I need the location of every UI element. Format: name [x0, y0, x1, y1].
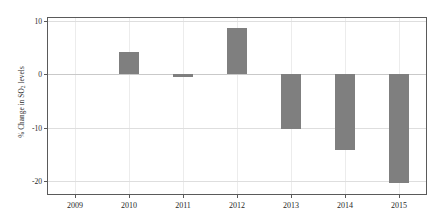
x-axis-tick [75, 194, 76, 198]
chart-figure: % Change in SO2 levels 100-10-2020092010… [0, 0, 438, 223]
bar-2013 [281, 74, 301, 129]
x-axis-tick-label: 2014 [337, 201, 353, 210]
bar-2012 [227, 28, 247, 74]
bar-2011 [173, 74, 193, 77]
x-axis-tick-label: 2010 [121, 201, 137, 210]
gridline-vertical [75, 18, 76, 194]
y-axis-tick [44, 128, 48, 129]
x-axis-tick-label: 2009 [67, 201, 83, 210]
gridline-horizontal [48, 128, 426, 129]
bar-2015 [389, 74, 409, 183]
gridline-vertical [129, 18, 130, 194]
gridline-horizontal [48, 181, 426, 182]
x-axis-tick [237, 194, 238, 198]
bar-2014 [335, 74, 355, 150]
gridline-vertical [183, 18, 184, 194]
y-axis-title: % Change in SO2 levels [18, 22, 26, 182]
bar-2010 [119, 52, 139, 74]
y-axis-tick-label: -20 [32, 176, 42, 185]
x-axis-tick-label: 2015 [391, 201, 407, 210]
y-axis-tick-label: 10 [34, 17, 42, 26]
x-axis-tick [183, 194, 184, 198]
plot-area: 100-10-202009201020112012201320142015 [47, 17, 427, 195]
x-axis-tick [399, 194, 400, 198]
x-axis-tick-label: 2012 [229, 201, 245, 210]
x-axis-tick-label: 2011 [175, 201, 191, 210]
x-axis-tick-label: 2013 [283, 201, 299, 210]
x-axis-tick [345, 194, 346, 198]
x-axis-tick [291, 194, 292, 198]
y-axis-tick-label: 0 [38, 70, 42, 79]
y-axis-tick [44, 74, 48, 75]
zero-line [48, 74, 426, 75]
y-axis-title-pre: % Change in SO [18, 88, 26, 138]
y-axis-tick [44, 181, 48, 182]
y-axis-title-post: levels [18, 66, 26, 85]
gridline-horizontal [48, 21, 426, 22]
y-axis-title-subscript: 2 [20, 85, 26, 88]
y-axis-tick [44, 21, 48, 22]
y-axis-tick-label: -10 [32, 123, 42, 132]
x-axis-tick [129, 194, 130, 198]
